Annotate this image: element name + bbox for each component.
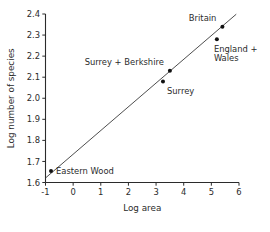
data-point [220,25,224,29]
y-axis-title: Log number of species [6,48,16,148]
species-area-scatter-chart: 1.61.71.81.92.02.12.22.32.4 -10123456 Ea… [0,0,270,232]
x-tick-label: -1 [41,187,49,197]
x-tick-label: 0 [70,187,75,197]
data-point-label: Britain [189,13,217,23]
regression-line-group [46,14,237,178]
y-tick-label: 2.1 [27,72,40,82]
x-tick-label: 6 [236,187,241,197]
x-axis-title: Log area [123,203,161,213]
y-tick-label: 1.6 [27,178,40,188]
y-tick-label: 1.9 [27,114,40,124]
y-tick-labels: 1.61.71.81.92.02.12.22.32.4 [27,9,40,188]
x-tick-label: 5 [209,187,214,197]
y-tick-label: 2.2 [27,51,40,61]
data-point-label-continuation: Wales [214,53,239,63]
x-tick-label: 2 [126,187,131,197]
regression-line [46,14,237,178]
x-tick-label: 4 [181,187,186,197]
y-tick-label: 2.0 [27,93,40,103]
axes-group [42,14,239,186]
x-tick-label: 3 [153,187,158,197]
x-tick-label: 1 [98,187,103,197]
y-tick-label: 2.3 [27,30,40,40]
data-point-label: Eastern Wood [56,166,114,176]
point-labels-group: Eastern WoodSurreySurrey + BerkshireEngl… [56,13,258,176]
data-point [161,79,165,83]
y-tick-label: 1.8 [27,135,40,145]
data-point [168,69,172,73]
x-tick-labels: -10123456 [41,187,241,197]
chart-svg: 1.61.71.81.92.02.12.22.32.4 -10123456 Ea… [0,0,270,232]
y-tick-label: 2.4 [27,9,40,19]
data-point-label: Surrey + Berkshire [85,57,164,67]
data-point-label: Surrey [167,86,194,96]
y-tick-label: 1.7 [27,157,40,167]
data-point [215,37,219,41]
data-point [49,169,53,173]
